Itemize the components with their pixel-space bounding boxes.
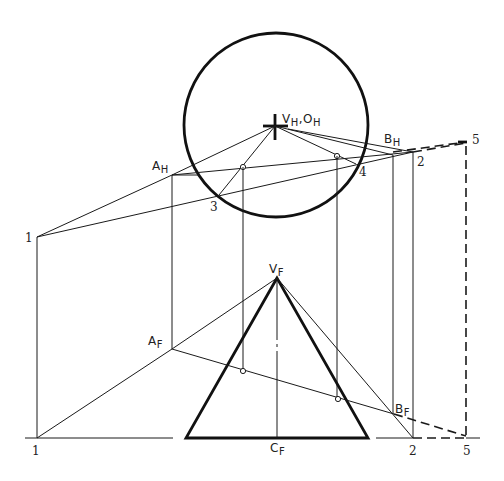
label-5-top: 5 xyxy=(472,133,480,147)
label-bh: BH xyxy=(384,132,401,148)
cone-line-intersection-diagram: VH,OH AH BH VF AF BF CF 1 1 2 2 3 4 5 5 xyxy=(0,0,504,481)
projectors xyxy=(37,146,466,438)
label-vf: VF xyxy=(269,262,284,278)
labels: VH,OH AH BH VF AF BF CF 1 1 2 2 3 4 5 5 xyxy=(25,112,480,458)
ray-vh-4 xyxy=(275,126,356,164)
line-1-af xyxy=(37,349,172,438)
line-1-2-top xyxy=(37,152,413,237)
top-view xyxy=(37,33,467,237)
label-vh: VH,OH xyxy=(282,112,321,128)
label-2-top: 2 xyxy=(417,155,425,169)
label-2-bottom: 2 xyxy=(409,444,417,458)
label-af: AF xyxy=(148,334,163,350)
label-5-bottom: 5 xyxy=(463,444,471,458)
label-4: 4 xyxy=(359,165,367,179)
intersection-marker-left-front xyxy=(240,368,245,373)
label-cf: CF xyxy=(270,441,285,457)
label-1-top: 1 xyxy=(25,231,33,245)
line-ah-bh xyxy=(172,152,413,175)
label-ah: AH xyxy=(152,159,169,175)
label-1-bottom: 1 xyxy=(32,444,40,458)
front-view xyxy=(25,278,480,438)
label-bf: BF xyxy=(395,402,410,418)
line-af-vf xyxy=(172,278,277,349)
label-3: 3 xyxy=(210,200,218,214)
line-1-ah xyxy=(37,175,172,237)
intersection-marker-right-front xyxy=(335,396,340,401)
